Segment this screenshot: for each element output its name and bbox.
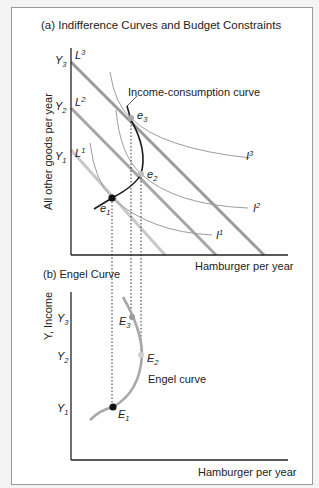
l1-label: L1 [75,146,85,159]
point-E1 [109,403,116,410]
i2-label: I2 [253,201,261,214]
point-E3 [129,314,135,320]
point-e2 [138,171,144,177]
y1-label-b: Y1 [57,402,69,417]
y2-label-b: Y2 [57,350,69,365]
l3-label: L3 [75,48,86,61]
E2-label: E2 [147,352,159,367]
l2-label: L2 [75,95,86,108]
engel-curve-label: Engel curve [148,373,206,385]
panel-b-y-axis-label: Y, Income [42,292,54,340]
point-e3 [128,115,134,121]
e1-label: e1 [100,202,110,217]
y1-label-a: Y1 [55,150,67,165]
y3-label-a: Y3 [55,54,67,69]
y3-label-b: Y3 [57,312,69,327]
icc-label: Income-consumption curve [128,86,260,98]
panel-a-x-axis-label: Hamburger per year [195,260,294,272]
point-e1 [108,194,115,201]
panel-b-x-axis-label: Hamburger per year [198,466,297,478]
i1-label: I1 [216,228,223,241]
panel-a-title: (a) Indifference Curves and Budget Const… [41,19,281,31]
y2-label-a: Y2 [55,100,67,115]
point-E2 [138,352,144,358]
i3-label: I3 [246,149,254,162]
economics-diagram: (a) Indifference Curves and Budget Const… [0,0,319,488]
E1-label: E1 [118,408,130,423]
e3-label: e3 [137,109,148,124]
panel-a-y-axis-label: All other goods per year [42,93,54,210]
panel-b-title: (b) Engel Curve [43,268,120,280]
